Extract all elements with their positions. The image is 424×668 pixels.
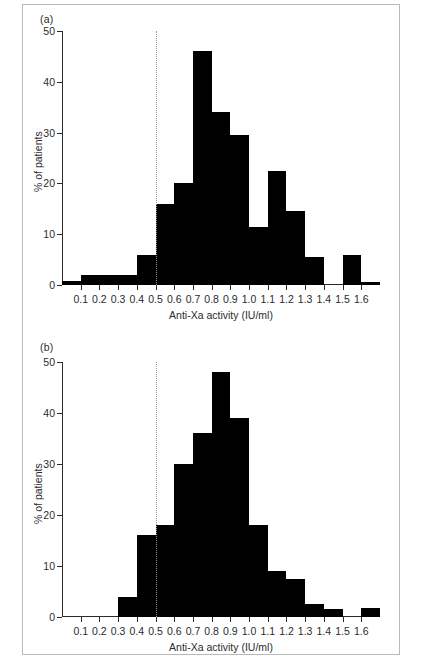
x-tick-b-3 (137, 617, 138, 622)
y-tick-a-2 (57, 183, 62, 184)
histogram-bar (193, 433, 212, 617)
x-tick-a-2 (118, 285, 119, 290)
x-tick-b-13 (324, 617, 325, 622)
histogram-bar (268, 171, 287, 285)
y-tick-label-a-0: 0 (49, 279, 55, 291)
panel-a-label: (a) (40, 13, 53, 25)
x-tick-label-b-1: 0.2 (92, 625, 107, 637)
x-tick-label-a-11: 1.2 (279, 293, 294, 305)
x-tick-a-0 (81, 285, 82, 290)
plot-area-a: % of patients Anti-Xa activity (IU/ml) 0… (62, 31, 380, 285)
histogram-bar (81, 275, 100, 285)
x-tick-label-a-3: 0.4 (130, 293, 145, 305)
y-tick-a-4 (57, 82, 62, 83)
y-tick-b-3 (57, 464, 62, 465)
x-tick-b-11 (286, 617, 287, 622)
histogram-bar (343, 255, 362, 285)
x-tick-label-b-8: 0.9 (223, 625, 238, 637)
histogram-bar (118, 597, 137, 617)
x-tick-b-12 (305, 617, 306, 622)
x-tick-label-b-10: 1.1 (260, 625, 275, 637)
x-tick-label-a-7: 0.8 (204, 293, 219, 305)
x-tick-a-10 (268, 285, 269, 290)
histogram-bar (305, 604, 324, 617)
x-tick-a-15 (361, 285, 362, 290)
x-tick-a-12 (305, 285, 306, 290)
histogram-bar (286, 211, 305, 285)
x-tick-a-6 (193, 285, 194, 290)
histogram-bar (174, 464, 193, 617)
histogram-bar (230, 418, 249, 617)
x-tick-label-a-6: 0.7 (186, 293, 201, 305)
x-tick-a-14 (343, 285, 344, 290)
x-tick-label-a-9: 1.0 (242, 293, 257, 305)
histogram-bar (361, 282, 380, 285)
x-tick-label-b-14: 1.5 (335, 625, 350, 637)
histogram-bar (230, 135, 249, 285)
y-tick-b-0 (57, 617, 62, 618)
histogram-bar (305, 257, 324, 285)
y-axis-label-a: % of patients (32, 131, 44, 192)
y-tick-label-b-3: 30 (43, 458, 55, 470)
x-tick-b-1 (99, 617, 100, 622)
y-tick-label-a-2: 20 (43, 177, 55, 189)
x-tick-label-a-15: 1.6 (354, 293, 369, 305)
histogram-bar (174, 183, 193, 285)
x-tick-label-b-0: 0.1 (73, 625, 88, 637)
x-tick-label-b-3: 0.4 (130, 625, 145, 637)
y-tick-label-b-1: 10 (43, 560, 55, 572)
y-tick-b-2 (57, 515, 62, 516)
x-tick-b-8 (230, 617, 231, 622)
x-tick-label-b-9: 1.0 (242, 625, 257, 637)
y-axis-b (62, 362, 63, 617)
x-tick-label-a-14: 1.5 (335, 293, 350, 305)
histogram-bar (212, 372, 231, 617)
x-tick-label-b-4: 0.5 (148, 625, 163, 637)
histogram-bar (99, 275, 118, 285)
x-tick-a-8 (230, 285, 231, 290)
y-axis-a (62, 31, 63, 285)
histogram-bar (361, 608, 380, 617)
x-tick-b-15 (361, 617, 362, 622)
x-axis-label-b: Anti-Xa activity (IU/ml) (62, 641, 380, 653)
histogram-bar (156, 204, 175, 285)
figure-frame: (a) % of patients Anti-Xa activity (IU/m… (22, 4, 400, 655)
plot-area-b: % of patients Anti-Xa activity (IU/ml) 0… (62, 362, 380, 617)
y-tick-b-4 (57, 413, 62, 414)
x-tick-label-b-6: 0.7 (186, 625, 201, 637)
x-tick-label-a-1: 0.2 (92, 293, 107, 305)
panel-b: (b) % of patients Anti-Xa activity (IU/m… (23, 335, 399, 656)
y-tick-a-3 (57, 133, 62, 134)
x-tick-a-4 (156, 285, 157, 290)
x-tick-b-4 (156, 617, 157, 622)
y-tick-label-a-5: 50 (43, 25, 55, 37)
y-axis-label-b: % of patients (32, 463, 44, 524)
y-tick-a-5 (57, 31, 62, 32)
x-tick-label-b-13: 1.4 (317, 625, 332, 637)
x-tick-a-5 (174, 285, 175, 290)
y-tick-a-1 (57, 234, 62, 235)
histogram-bar (268, 571, 287, 617)
x-tick-b-7 (212, 617, 213, 622)
y-tick-label-a-1: 10 (43, 228, 55, 240)
x-tick-b-6 (193, 617, 194, 622)
histogram-bar (62, 281, 81, 285)
x-tick-label-b-2: 0.3 (111, 625, 126, 637)
x-tick-a-7 (212, 285, 213, 290)
x-tick-b-5 (174, 617, 175, 622)
x-tick-label-a-5: 0.6 (167, 293, 182, 305)
histogram-bar (137, 535, 156, 617)
histogram-bar (249, 227, 268, 285)
x-tick-a-11 (286, 285, 287, 290)
x-tick-label-b-5: 0.6 (167, 625, 182, 637)
histogram-bar (193, 51, 212, 285)
x-tick-label-a-13: 1.4 (317, 293, 332, 305)
histogram-bar (118, 275, 137, 285)
x-tick-label-a-4: 0.5 (148, 293, 163, 305)
histogram-bar (156, 525, 175, 617)
x-axis-label-a: Anti-Xa activity (IU/ml) (62, 309, 380, 321)
x-tick-a-13 (324, 285, 325, 290)
x-tick-b-9 (249, 617, 250, 622)
x-tick-label-b-12: 1.3 (298, 625, 313, 637)
histogram-bar (212, 112, 231, 285)
